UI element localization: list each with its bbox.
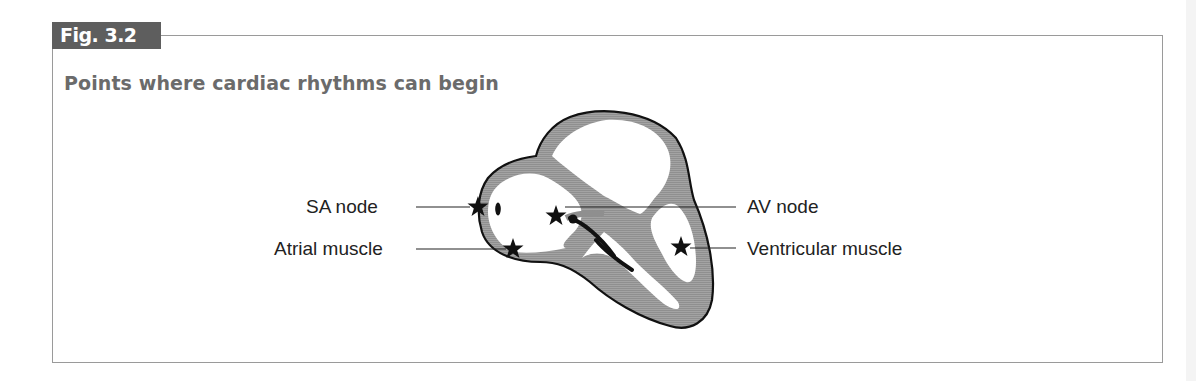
- heart-diagram: [0, 0, 1196, 381]
- label-ventricular-muscle: Ventricular muscle: [747, 239, 902, 259]
- heart-wall: [479, 111, 713, 327]
- label-sa-node: SA node: [306, 197, 378, 217]
- label-av-node: AV node: [747, 197, 818, 217]
- label-atrial-muscle: Atrial muscle: [274, 239, 383, 259]
